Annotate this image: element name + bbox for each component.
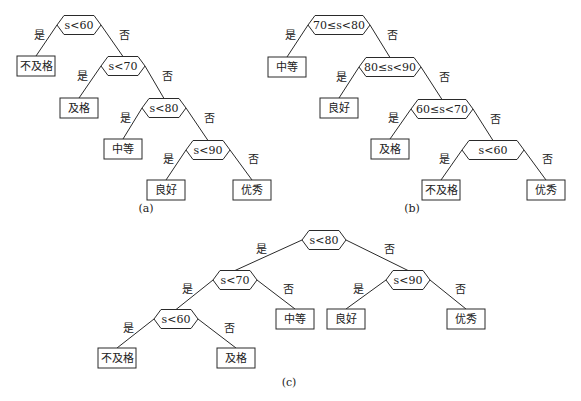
leaf-node: 及格: [371, 139, 409, 159]
leaf-node: 中等: [104, 139, 142, 159]
node-label: 60≤s<70: [416, 103, 468, 116]
node-label: 中等: [284, 312, 306, 326]
decision-node: s<60: [154, 310, 198, 329]
node-label: 中等: [112, 142, 134, 156]
leaf-node: 及格: [217, 348, 255, 368]
leaf-node: 及格: [60, 98, 98, 118]
edge-label-yes: 是: [285, 29, 296, 42]
node-label: s<80: [150, 102, 179, 115]
edge-label-no: 否: [455, 283, 466, 296]
edge-label-yes: 是: [388, 112, 399, 125]
tree-caption-c: (c): [282, 376, 297, 389]
node-label: s<60: [65, 19, 94, 32]
leaf-node: 不及格: [17, 56, 55, 76]
leaf-node: 优秀: [447, 309, 485, 329]
edge-label-no: 否: [384, 243, 395, 256]
edge-label-yes: 是: [77, 70, 88, 83]
node-label: s<60: [479, 144, 508, 157]
edge-label-yes: 是: [182, 283, 193, 296]
leaf-node: 优秀: [527, 180, 565, 200]
decision-node: s<90: [186, 141, 230, 160]
node-label: 不及格: [101, 351, 134, 365]
edge-label-yes: 是: [120, 112, 131, 125]
edge-label-yes: 是: [353, 283, 364, 296]
node-label: s<90: [394, 274, 423, 287]
decision-tree-figure: s<60不及格s<70及格s<80中等s<90良好优秀70≤s<80中等80≤s…: [0, 0, 581, 401]
edge-label-no: 否: [542, 153, 553, 166]
decision-node: s<70: [101, 57, 145, 76]
node-label: 及格: [225, 351, 247, 365]
decision-node: 60≤s<70: [411, 100, 473, 119]
edge-c3-c6: [346, 280, 386, 309]
edge-label-yes: 是: [34, 29, 45, 42]
node-label: 优秀: [241, 184, 263, 197]
node-label: 中等: [276, 60, 298, 74]
tree-caption-a: (a): [138, 202, 153, 215]
node-label: 良好: [335, 312, 357, 326]
edge-label-no: 否: [248, 153, 259, 166]
node-label: 良好: [155, 183, 177, 197]
edge-label-yes: 是: [123, 322, 134, 335]
edge-label-no: 否: [224, 322, 235, 335]
node-label: 80≤s<90: [364, 61, 416, 74]
edge-c1-c2: [235, 240, 302, 271]
edge-label-yes: 是: [163, 153, 174, 166]
node-label: s<70: [109, 60, 138, 73]
decision-node: s<70: [213, 271, 257, 290]
tree-caption-b: (b): [404, 202, 420, 215]
leaf-node: 不及格: [98, 348, 136, 368]
edge-label-yes: 是: [439, 153, 450, 166]
leaf-node: 中等: [276, 309, 314, 329]
edge-label-no: 否: [439, 71, 450, 84]
node-label: 70≤s<80: [313, 19, 365, 32]
leaf-node: 中等: [268, 57, 306, 77]
leaf-node: 不及格: [422, 180, 460, 200]
leaf-node: 良好: [147, 180, 185, 200]
node-label: 良好: [328, 101, 350, 115]
edge-label-no: 否: [490, 113, 501, 126]
edge-label-yes: 是: [336, 71, 347, 84]
node-label: 不及格: [425, 183, 458, 197]
decision-node: 70≤s<80: [308, 16, 370, 35]
decision-node: s<80: [142, 99, 186, 118]
node-label: s<80: [310, 234, 339, 247]
decision-node: s<80: [302, 231, 346, 250]
decision-node: 80≤s<90: [359, 58, 421, 77]
node-label: s<90: [194, 144, 223, 157]
decision-node: s<90: [386, 271, 430, 290]
node-label: 优秀: [455, 313, 477, 326]
leaf-node: 良好: [320, 98, 358, 118]
decision-node: s<60: [57, 16, 101, 35]
edge-label-no: 否: [162, 70, 173, 83]
decision-node: s<60: [462, 141, 524, 160]
leaf-node: 优秀: [233, 180, 271, 200]
edge-label-no: 否: [119, 29, 130, 42]
leaf-node: 良好: [327, 309, 365, 329]
node-label: s<60: [162, 313, 191, 326]
edge-label-no: 否: [387, 29, 398, 42]
node-label: s<70: [221, 274, 250, 287]
edge-c1-c3: [346, 240, 408, 271]
edge-label-yes: 是: [256, 243, 267, 256]
node-label: 及格: [68, 101, 90, 115]
edge-label-no: 否: [283, 283, 294, 296]
node-label: 优秀: [535, 184, 557, 197]
node-label: 不及格: [20, 59, 53, 73]
node-label: 及格: [379, 142, 401, 156]
edge-label-no: 否: [204, 112, 215, 125]
